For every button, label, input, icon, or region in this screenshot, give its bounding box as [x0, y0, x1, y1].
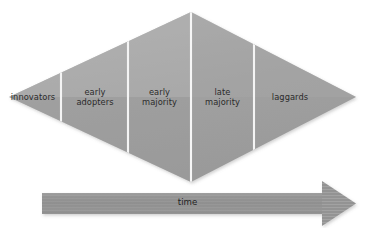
time-axis-arrow: [42, 181, 356, 226]
diffusion-of-innovations-diagram: innovators early adopters early majority…: [0, 0, 375, 228]
time-arrow-shaft-shade: [42, 193, 322, 214]
rhombus-right-facet: [191, 12, 356, 97]
rhombus-highlight-facet: [9, 12, 191, 97]
rhombus-lower-facet: [9, 97, 191, 182]
diagram-canvas: [0, 0, 375, 228]
